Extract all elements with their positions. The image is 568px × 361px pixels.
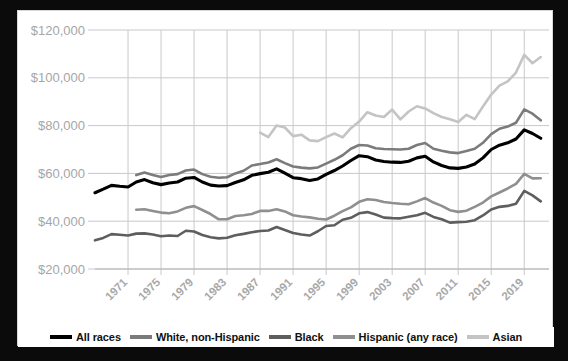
x-axis-tick-label: 2015 xyxy=(466,276,493,303)
chart-legend: All racesWhite, non-HispanicBlackHispani… xyxy=(18,327,554,347)
screenshot-frame: $120,000$100,000$80,000$60,000$40,000$20… xyxy=(0,0,568,361)
legend-item-all-races[interactable]: All races xyxy=(50,331,121,343)
y-axis-ticks: $120,000$100,000$80,000$60,000$40,000$20… xyxy=(31,23,85,277)
x-axis-tick-label: 2003 xyxy=(367,276,394,303)
legend-item-white-non-hispanic[interactable]: White, non-Hispanic xyxy=(130,331,260,343)
legend-swatch-asian xyxy=(467,335,489,339)
x-axis-tick-label: 2007 xyxy=(400,276,427,303)
chart-plot-area: $120,000$100,000$80,000$60,000$40,000$20… xyxy=(18,11,554,329)
x-axis-tick-label: 2019 xyxy=(499,276,526,303)
y-axis-tick-label: $80,000 xyxy=(38,118,85,133)
y-axis-tick-label: $20,000 xyxy=(38,262,85,277)
x-axis-tick-label: 1999 xyxy=(334,276,361,303)
line-chart-svg: $120,000$100,000$80,000$60,000$40,000$20… xyxy=(18,11,554,329)
y-axis-tick-label: $40,000 xyxy=(38,214,85,229)
legend-item-asian[interactable]: Asian xyxy=(467,331,522,343)
x-axis-tick-label: 1995 xyxy=(301,276,328,303)
x-axis-tick-label: 1979 xyxy=(169,276,196,303)
x-axis-tick-label: 1971 xyxy=(103,276,130,303)
legend-label: Asian xyxy=(493,331,522,343)
x-axis-tick-label: 1983 xyxy=(202,276,229,303)
legend-label: Hispanic (any race) xyxy=(359,331,458,343)
data-series-layer xyxy=(95,55,541,240)
chart-card: $120,000$100,000$80,000$60,000$40,000$20… xyxy=(17,10,553,346)
legend-label: Black xyxy=(295,331,324,343)
legend-swatch-all-races xyxy=(50,335,72,339)
x-axis-tick-label: 1975 xyxy=(136,276,163,303)
y-axis-tick-label: $120,000 xyxy=(31,23,85,38)
grid-lines xyxy=(88,30,549,275)
x-axis-tick-label: 1987 xyxy=(235,276,262,303)
legend-swatch-black xyxy=(269,335,291,339)
legend-swatch-white xyxy=(130,335,152,339)
legend-label: White, non-Hispanic xyxy=(156,331,260,343)
x-axis-tick-label: 1991 xyxy=(268,276,295,303)
legend-item-hispanic-any-race[interactable]: Hispanic (any race) xyxy=(333,331,458,343)
series-line-black xyxy=(95,191,541,240)
series-line-all-races xyxy=(95,130,541,193)
y-axis-tick-label: $60,000 xyxy=(38,166,85,181)
y-axis-tick-label: $100,000 xyxy=(31,70,85,85)
x-axis-tick-label: 2011 xyxy=(433,276,460,303)
legend-label: All races xyxy=(76,331,121,343)
legend-swatch-hispanic xyxy=(333,335,355,339)
x-axis-ticks: 1971197519791983198719911995199920032007… xyxy=(103,276,526,303)
legend-item-black[interactable]: Black xyxy=(269,331,324,343)
